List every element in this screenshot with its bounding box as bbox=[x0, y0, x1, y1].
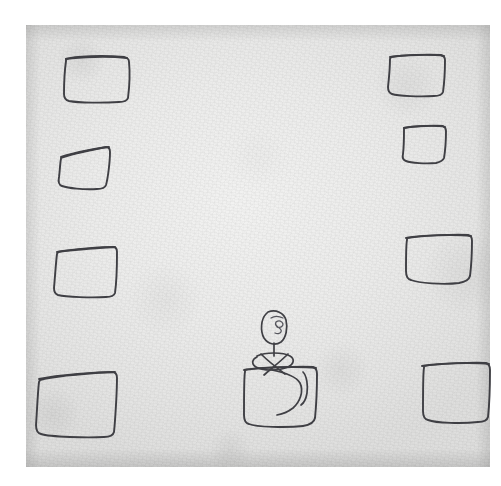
sketch-canvas: Hand-drawn classroom seating sketch Eigh… bbox=[0, 0, 501, 486]
paper-sheet bbox=[26, 25, 490, 467]
paper-mottle-texture bbox=[26, 25, 490, 467]
